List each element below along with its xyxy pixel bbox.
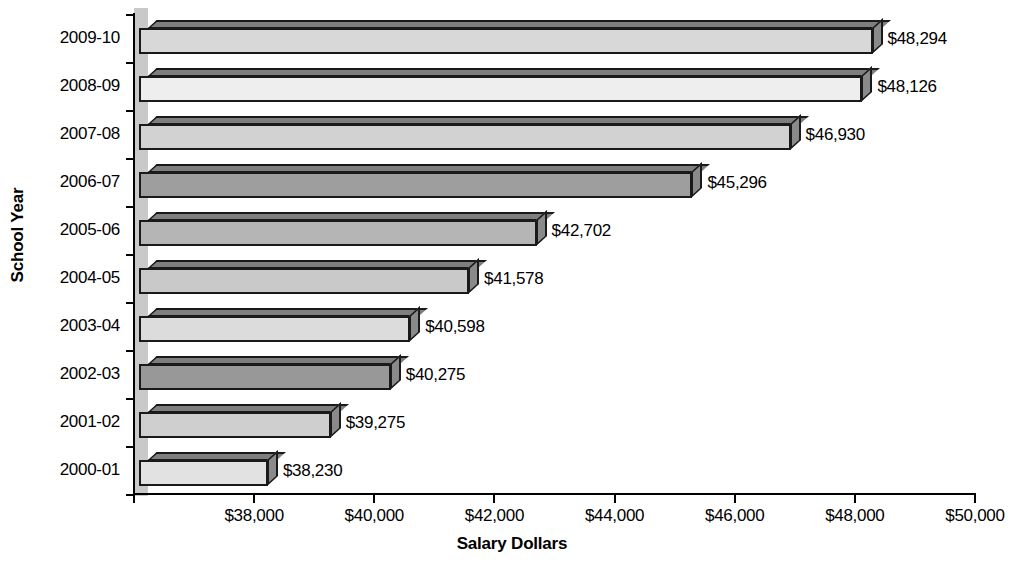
y-axis-tick-label: 2007-08	[22, 124, 120, 144]
y-axis-tick-label: 2000-01	[22, 460, 120, 480]
x-axis-tick	[854, 494, 856, 503]
bar-front-face	[139, 220, 537, 246]
y-axis-tick	[126, 254, 134, 256]
x-axis-tick-label: $48,000	[795, 506, 915, 526]
bar-top-face	[148, 356, 409, 364]
bar-value-label: $41,578	[484, 269, 543, 289]
bar[interactable]	[139, 308, 421, 344]
bar-value-label: $40,275	[406, 365, 465, 385]
y-axis-tick-label: 2006-07	[22, 172, 120, 192]
y-axis-tick	[126, 446, 134, 448]
bar-top-face	[148, 212, 554, 220]
x-axis-tick	[614, 494, 616, 503]
x-axis-tick-label: $46,000	[675, 506, 795, 526]
bar-top-face	[148, 308, 428, 316]
y-axis-tick	[126, 206, 134, 208]
y-axis-tick-label: 2001-02	[22, 412, 120, 432]
y-axis-tick-label: 2002-03	[22, 364, 120, 384]
bar-top-face	[148, 68, 880, 76]
y-axis-tick	[126, 62, 134, 64]
x-axis-title: Salary Dollars	[0, 534, 1024, 554]
x-axis-line	[133, 493, 976, 495]
y-axis-tick-label: 2009-10	[22, 28, 120, 48]
x-axis-tick	[373, 494, 375, 503]
bar-top-face	[148, 20, 890, 28]
x-axis-tick-label: $40,000	[314, 506, 434, 526]
y-axis-tick-label: 2008-09	[22, 76, 120, 96]
bar-top-face	[148, 260, 487, 268]
bar[interactable]	[139, 452, 279, 488]
x-axis-tick-label: $44,000	[555, 506, 675, 526]
bar-value-label: $40,598	[425, 317, 484, 337]
bar-front-face	[139, 316, 410, 342]
bar-top-face	[148, 116, 808, 124]
x-axis-tick-label: $38,000	[194, 506, 314, 526]
y-axis-tick-label: 2003-04	[22, 316, 120, 336]
x-axis-tick-label: $42,000	[434, 506, 554, 526]
y-axis-tick-label: 2005-06	[22, 220, 120, 240]
bar[interactable]	[139, 20, 884, 56]
y-axis-tick	[126, 398, 134, 400]
y-axis-tick	[126, 14, 134, 16]
y-axis-tick-label: 2004-05	[22, 268, 120, 288]
y-axis-tick	[126, 350, 134, 352]
x-axis-tick-label: $50,000	[915, 506, 1024, 526]
bar-top-face	[148, 404, 349, 412]
bar-front-face	[139, 172, 692, 198]
bar-value-label: $45,296	[707, 173, 766, 193]
bar-front-face	[139, 28, 873, 54]
bar-front-face	[139, 412, 331, 438]
bar-value-label: $39,275	[346, 413, 405, 433]
bar-value-label: $38,230	[283, 461, 342, 481]
x-axis-tick	[493, 494, 495, 503]
bar[interactable]	[139, 68, 873, 104]
bar-front-face	[139, 364, 391, 390]
bar[interactable]	[139, 260, 480, 296]
bar-value-label: $46,930	[806, 125, 865, 145]
bar[interactable]	[139, 212, 548, 248]
bar-top-face	[148, 164, 710, 172]
x-axis-tick	[974, 494, 976, 503]
bar-value-label: $48,126	[877, 77, 936, 97]
y-axis-tick	[126, 158, 134, 160]
bar-front-face	[139, 124, 791, 150]
bar-value-label: $48,294	[888, 29, 947, 49]
bar[interactable]	[139, 356, 402, 392]
bar-value-label: $42,702	[552, 221, 611, 241]
bar-top-face	[148, 452, 286, 460]
x-axis-tick	[133, 494, 135, 503]
x-axis-tick	[734, 494, 736, 503]
bar[interactable]	[139, 164, 703, 200]
bar[interactable]	[139, 116, 802, 152]
bar-chart: School Year $48,294$48,126$46,930$45,296…	[0, 0, 1024, 564]
y-axis-tick	[126, 302, 134, 304]
bar-front-face	[139, 460, 268, 486]
bar-front-face	[139, 76, 862, 102]
bar[interactable]	[139, 404, 342, 440]
bar-front-face	[139, 268, 469, 294]
x-axis-tick	[253, 494, 255, 503]
y-axis-tick	[126, 110, 134, 112]
